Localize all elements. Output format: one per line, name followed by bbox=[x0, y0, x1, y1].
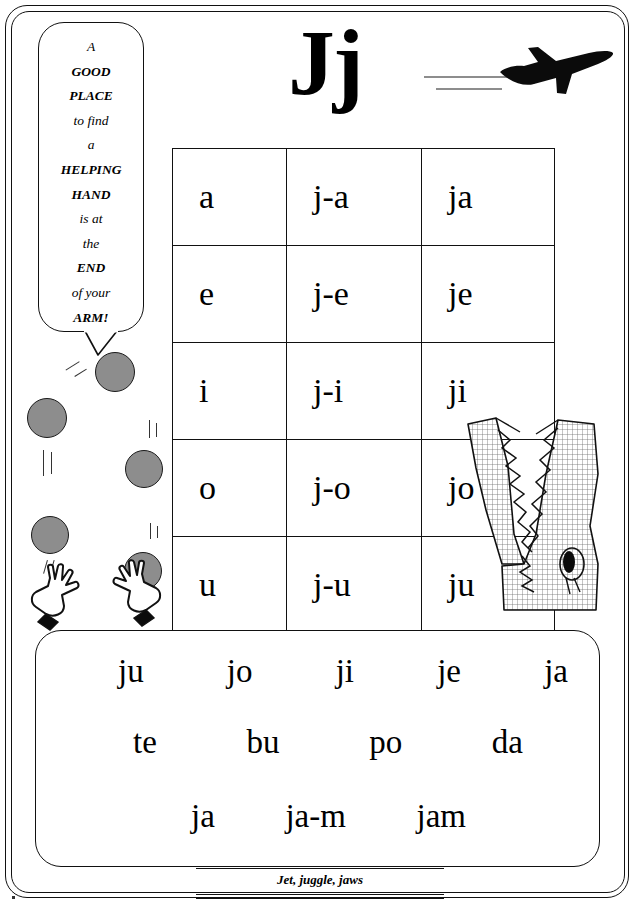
motion-line bbox=[43, 450, 44, 476]
footer-rule bbox=[196, 868, 444, 869]
contrail-line bbox=[436, 88, 502, 90]
juggling-hand-icon bbox=[28, 562, 84, 632]
bubble-line: HELPING bbox=[39, 158, 143, 183]
bubble-line: GOOD bbox=[39, 60, 143, 85]
cell-split: j-e bbox=[287, 246, 422, 343]
bubble-line: a bbox=[39, 133, 143, 158]
footer-rule bbox=[196, 894, 444, 895]
page-title: Jj bbox=[245, 16, 405, 109]
practice-row-2: te bu po da bbox=[133, 724, 523, 761]
bubble-line: PLACE bbox=[39, 84, 143, 109]
bubble-line: A bbox=[39, 35, 143, 60]
table-row: e j-e je bbox=[173, 246, 555, 343]
footer-rule bbox=[196, 898, 444, 899]
bubble-line: END bbox=[39, 256, 143, 281]
practice-row-3: ja ja-m jam bbox=[191, 798, 466, 835]
practice-row-1: ju jo ji je ja bbox=[118, 653, 568, 690]
juggling-ball bbox=[95, 352, 135, 392]
cell-vowel: i bbox=[173, 343, 287, 440]
juggling-ball bbox=[31, 516, 69, 554]
cell-split: j-i bbox=[287, 343, 422, 440]
practice-word: ja bbox=[191, 798, 215, 835]
bubble-line: is at bbox=[39, 207, 143, 232]
bubble-line: HAND bbox=[39, 183, 143, 208]
practice-word: ja-m bbox=[285, 798, 345, 835]
cell-split: j-a bbox=[287, 149, 422, 246]
corner-mark bbox=[12, 896, 15, 899]
practice-word: jo bbox=[227, 653, 253, 690]
juggling-ball bbox=[27, 398, 67, 438]
worksheet-page: Jj A GOOD PLACE to find a HELPING HAND i… bbox=[0, 0, 639, 908]
bubble-line: to find bbox=[39, 109, 143, 134]
crocodile-head-icon bbox=[462, 414, 622, 630]
cell-blend: ja bbox=[422, 149, 555, 246]
juggling-ball bbox=[125, 450, 163, 488]
cell-split: j-u bbox=[287, 537, 422, 634]
bubble-line: of your bbox=[39, 281, 143, 306]
jet-plane-icon bbox=[494, 38, 614, 100]
practice-word: ja bbox=[544, 653, 568, 690]
practice-word: da bbox=[492, 724, 523, 761]
motion-line bbox=[51, 452, 52, 474]
practice-word: te bbox=[133, 724, 157, 761]
practice-word: ji bbox=[336, 653, 354, 690]
practice-word: ju bbox=[118, 653, 144, 690]
cell-split: j-o bbox=[287, 440, 422, 537]
motion-line bbox=[149, 420, 150, 438]
motion-line bbox=[157, 526, 158, 538]
bubble-line: ARM! bbox=[39, 306, 143, 331]
practice-word: je bbox=[437, 653, 461, 690]
juggling-hand-icon bbox=[108, 558, 164, 628]
practice-word: jam bbox=[417, 798, 466, 835]
practice-word: po bbox=[369, 724, 402, 761]
speech-bubble: A GOOD PLACE to find a HELPING HAND is a… bbox=[38, 22, 144, 332]
table-row: a j-a ja bbox=[173, 149, 555, 246]
cell-vowel: o bbox=[173, 440, 287, 537]
bubble-line: the bbox=[39, 232, 143, 257]
cell-vowel: u bbox=[173, 537, 287, 634]
footer-caption: Jet, juggle, jaws bbox=[196, 872, 444, 888]
cell-vowel: a bbox=[173, 149, 287, 246]
motion-line bbox=[156, 423, 157, 437]
cell-blend: je bbox=[422, 246, 555, 343]
cell-vowel: e bbox=[173, 246, 287, 343]
practice-word: bu bbox=[247, 724, 280, 761]
practice-box: ju jo ji je ja te bu po da ja ja-m jam bbox=[35, 630, 600, 867]
motion-line bbox=[150, 523, 151, 539]
